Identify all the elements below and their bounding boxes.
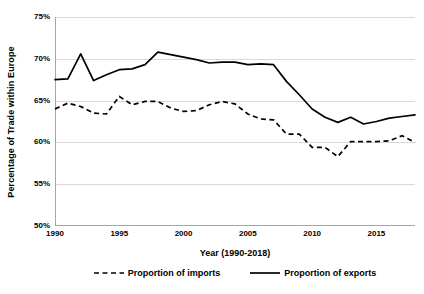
x-axis-title: Year (1990-2018) bbox=[55, 248, 415, 258]
chart-legend: Proportion of imports Proportion of expo… bbox=[55, 268, 415, 278]
legend-item-exports: Proportion of exports bbox=[250, 268, 376, 278]
legend-label-imports: Proportion of imports bbox=[128, 268, 221, 278]
series-line-exports bbox=[55, 52, 415, 124]
series-line-imports bbox=[55, 96, 415, 156]
line-chart: Percentage of Trade within Europe 75%70%… bbox=[0, 0, 424, 294]
legend-label-exports: Proportion of exports bbox=[284, 268, 376, 278]
dashed-line-swatch bbox=[94, 269, 124, 277]
legend-item-imports: Proportion of imports bbox=[94, 268, 221, 278]
solid-line-swatch bbox=[250, 269, 280, 277]
